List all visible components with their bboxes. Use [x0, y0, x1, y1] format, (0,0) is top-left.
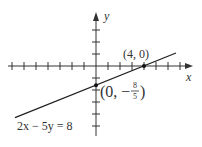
- y-axis-label: y: [103, 9, 110, 23]
- svg-text:8: 8: [133, 81, 137, 90]
- point-b-label: (0, − 8 5 ): [100, 81, 145, 101]
- equation-label: 2x − 5y = 8: [17, 119, 73, 133]
- point-a-label: (4, 0): [123, 47, 149, 61]
- point-y-intercept: [94, 83, 98, 87]
- x-arrow-icon: [185, 63, 193, 69]
- point-x-intercept: [142, 64, 146, 68]
- graph: y x (4, 0) (0, − 8 5 ) 2x − 5y = 8: [0, 0, 202, 147]
- x-axis: [8, 62, 193, 70]
- x-axis-label: x: [185, 70, 192, 84]
- svg-text:5: 5: [133, 92, 137, 101]
- y-axis: [92, 12, 100, 136]
- svg-text:(0, −: (0, −: [100, 83, 130, 101]
- svg-text:): ): [140, 83, 145, 101]
- y-arrow-icon: [93, 12, 99, 21]
